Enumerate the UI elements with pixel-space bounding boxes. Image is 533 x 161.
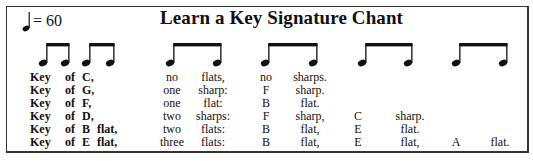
cell-n1: B — [262, 136, 270, 149]
cell-count: three — [160, 136, 184, 149]
cell-of: of — [65, 136, 75, 149]
eighth-note-pair-icon — [165, 43, 222, 68]
eighth-note-pair-icon — [357, 43, 413, 68]
cell-n2k: flat, — [401, 136, 420, 149]
eighth-note-pair-icon — [260, 43, 318, 68]
cell-letter: E — [82, 136, 90, 149]
eighth-note-pair-icon — [38, 43, 70, 68]
cell-accidental: flat, — [97, 136, 117, 149]
cell-key: Key — [30, 136, 51, 149]
eighth-note-pair-icon — [81, 43, 115, 68]
cell-n3: A — [452, 136, 461, 149]
cell-kind: flats: — [201, 136, 225, 149]
cell-n2: E — [354, 136, 361, 149]
cell-n1k: flat, — [301, 136, 320, 149]
cell-n3k: flat. — [491, 136, 510, 149]
eighth-note-rhythm — [0, 0, 533, 80]
eighth-note-pair-icon — [451, 43, 508, 68]
